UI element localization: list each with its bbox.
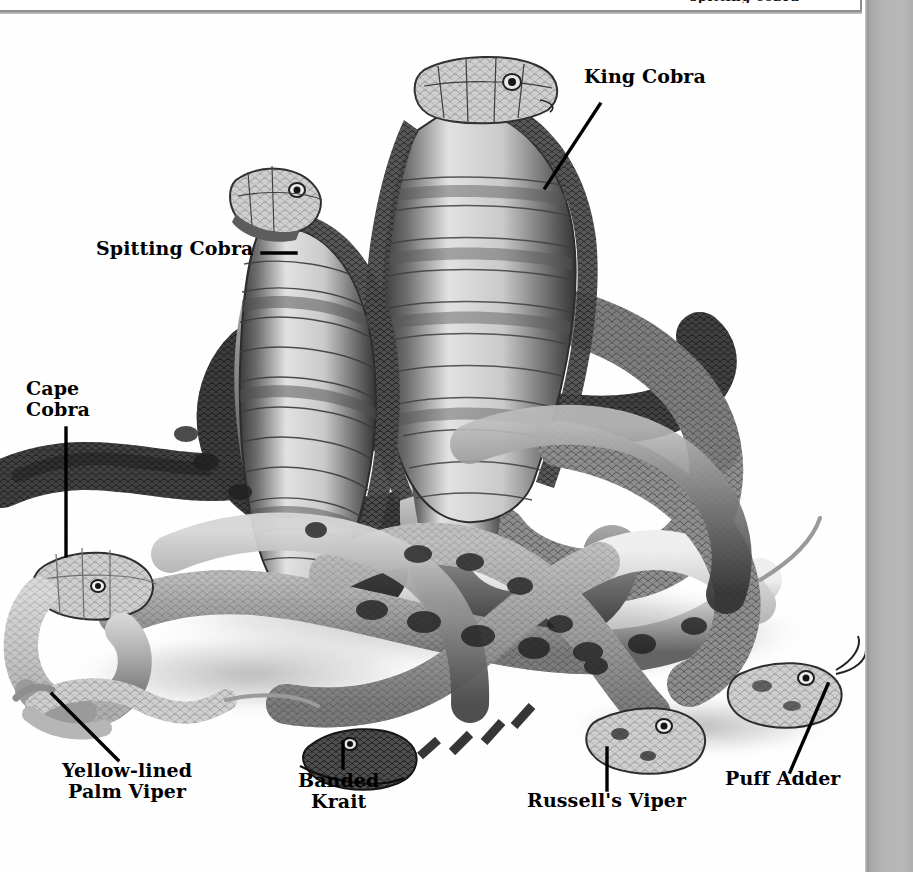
yellow-lined-palm-viper-leader <box>52 694 118 760</box>
clipped-caption-text: spitting cobra <box>690 0 840 3</box>
label-puff-adder: Puff Adder <box>725 768 840 789</box>
label-cape-cobra: Cape Cobra <box>26 378 90 421</box>
top-panel-shadow <box>0 11 862 14</box>
label-king-cobra: King Cobra <box>584 66 706 87</box>
leader-lines <box>0 0 868 872</box>
puff-adder-leader <box>790 684 828 772</box>
king-cobra-leader <box>545 104 600 188</box>
label-russells-viper: Russell's Viper <box>527 790 686 811</box>
label-yellow-lined-palm-viper: Yellow-lined Palm Viper <box>62 760 192 803</box>
label-spitting-cobra: Spitting Cobra <box>96 238 254 259</box>
label-banded-krait: Banded Krait <box>298 770 379 813</box>
scanned-page: King Cobra Spitting Cobra Cape Cobra Yel… <box>0 0 913 872</box>
book-gutter <box>868 0 913 872</box>
